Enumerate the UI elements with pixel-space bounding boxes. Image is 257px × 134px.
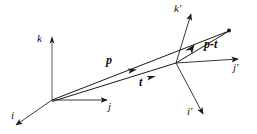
axis-label-i: i <box>11 110 14 121</box>
vector-p-line <box>52 31 229 100</box>
axis-label-j-prime: j' <box>233 62 238 73</box>
vector-t <box>52 63 176 102</box>
vector-p-arrowhead <box>128 69 138 74</box>
endpoint-dot <box>227 29 231 33</box>
axis-i-line <box>16 100 52 125</box>
vector-label-p-minus-t: p-t <box>204 38 217 50</box>
axis-label-k-prime: k' <box>174 3 181 14</box>
vector-label-p: p <box>106 54 112 66</box>
axis-label-i-prime: i' <box>187 106 192 117</box>
vector-p <box>52 31 229 100</box>
frame-unprimed <box>16 36 107 125</box>
vector-label-t: t <box>139 76 142 88</box>
axis-label-k: k <box>37 33 42 44</box>
vector-diagram: i j k i' j' k' p t p-t <box>0 0 257 134</box>
diagram-canvas <box>0 0 257 134</box>
vector-t-arrowhead <box>147 76 157 81</box>
vector-t-line <box>52 63 176 102</box>
axis-label-j: j <box>108 101 111 112</box>
axis-j-prime-line <box>176 59 238 63</box>
